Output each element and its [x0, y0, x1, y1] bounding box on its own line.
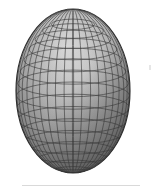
scan-artifact-speck — [149, 65, 151, 70]
bottom-divider-rule — [22, 185, 140, 186]
ellipsoid-wireframe-figure — [0, 0, 162, 191]
figure-canvas: Wireframe shaded ellipsoid — [0, 0, 162, 191]
